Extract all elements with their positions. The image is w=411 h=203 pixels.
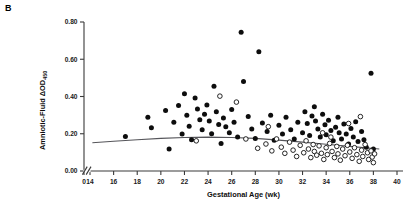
data-point-filled xyxy=(305,121,310,126)
y-tick-label: 0.40 xyxy=(65,93,78,100)
data-point-open xyxy=(325,152,330,157)
data-point-open xyxy=(311,142,316,147)
data-point-open xyxy=(234,100,239,105)
data-point-filled xyxy=(344,132,349,137)
data-point-filled xyxy=(246,114,251,119)
data-point-open xyxy=(279,145,284,150)
data-point-filled xyxy=(149,125,154,130)
data-point-filled xyxy=(221,115,226,120)
data-point-filled xyxy=(335,115,340,120)
data-point-filled xyxy=(265,129,270,134)
x-tick-label: 26 xyxy=(228,178,236,185)
data-point-filled xyxy=(123,134,128,139)
data-point-filled xyxy=(184,113,189,118)
data-point-open xyxy=(294,154,299,159)
data-point-filled xyxy=(209,131,214,136)
data-point-open xyxy=(264,142,269,147)
data-point-filled xyxy=(369,71,374,76)
y-tick-label: 0.20 xyxy=(65,130,78,137)
data-point-open xyxy=(330,149,335,154)
data-point-filled xyxy=(216,122,221,127)
data-point-open xyxy=(357,159,362,164)
data-point-filled xyxy=(295,120,300,125)
data-point-filled xyxy=(235,135,240,140)
data-point-open xyxy=(291,148,296,153)
data-point-filled xyxy=(351,135,356,140)
data-point-filled xyxy=(276,123,281,128)
data-point-open xyxy=(306,147,311,152)
data-point-filled xyxy=(232,120,237,125)
data-point-filled xyxy=(268,113,273,118)
data-point-open xyxy=(340,147,345,152)
data-point-filled xyxy=(241,79,246,84)
data-point-open xyxy=(266,124,271,129)
data-point-filled xyxy=(249,127,254,132)
data-point-open xyxy=(283,151,288,156)
data-point-filled xyxy=(253,136,258,141)
data-point-filled xyxy=(359,129,364,134)
data-point-filled xyxy=(292,136,297,141)
data-point-filled xyxy=(333,125,338,130)
x-tick-label: 34 xyxy=(322,178,330,185)
y-tick-label: 0.00 xyxy=(65,167,78,174)
data-point-filled xyxy=(207,119,212,124)
data-point-filled xyxy=(341,122,346,127)
scatter-plot: 0.000.200.400.600.8001416182022242628303… xyxy=(0,0,411,203)
data-point-filled xyxy=(176,103,181,108)
data-point-filled xyxy=(167,147,172,152)
data-point-filled xyxy=(219,141,224,146)
figure-panel-b: B Amniotic-Fluid ΔOD450 0.000.200.400.60… xyxy=(0,0,411,203)
data-point-open xyxy=(324,145,329,150)
data-point-filled xyxy=(307,133,312,138)
data-point-filled xyxy=(348,126,353,131)
data-point-open xyxy=(345,143,350,148)
data-point-open xyxy=(301,150,306,155)
data-point-filled xyxy=(187,124,192,129)
y-tick-label: 0.60 xyxy=(65,56,78,63)
data-point-open xyxy=(363,142,368,147)
x-tick-label: 18 xyxy=(134,178,142,185)
data-point-open xyxy=(372,152,377,157)
data-point-filled xyxy=(339,136,344,141)
x-tick-label: 14 xyxy=(86,178,94,185)
data-point-open xyxy=(355,152,360,157)
filled-circle-series xyxy=(123,30,376,152)
data-point-open xyxy=(314,153,319,158)
data-point-filled xyxy=(312,104,317,109)
data-point-open xyxy=(359,148,364,153)
data-point-filled xyxy=(302,109,307,114)
data-point-filled xyxy=(171,120,176,125)
data-point-filled xyxy=(180,132,185,137)
data-point-open xyxy=(255,146,260,151)
data-point-filled xyxy=(214,109,219,114)
data-point-open xyxy=(346,121,351,126)
data-point-filled xyxy=(200,127,205,132)
data-point-filled xyxy=(204,102,209,107)
data-point-filled xyxy=(239,30,244,35)
data-point-filled xyxy=(322,122,327,127)
x-tick-label: 28 xyxy=(252,178,260,185)
x-tick-label: 24 xyxy=(204,178,212,185)
data-point-open xyxy=(334,144,339,149)
data-point-filled xyxy=(229,107,234,112)
x-tick-label: 16 xyxy=(110,178,118,185)
data-point-open xyxy=(371,160,376,165)
x-axis-title: Gestational Age (wk) xyxy=(207,190,280,199)
data-point-filled xyxy=(202,112,207,117)
data-point-open xyxy=(194,139,199,144)
data-point-filled xyxy=(223,124,228,129)
data-point-filled xyxy=(211,84,216,89)
data-point-open xyxy=(358,114,363,119)
data-point-open xyxy=(332,155,337,160)
data-point-open xyxy=(298,143,303,148)
data-point-open xyxy=(329,135,334,140)
data-point-open xyxy=(336,152,341,157)
data-point-open xyxy=(360,154,365,159)
x-tick-label: 32 xyxy=(299,178,307,185)
data-point-filled xyxy=(315,127,320,132)
data-point-open xyxy=(320,131,325,136)
data-point-filled xyxy=(309,114,314,119)
data-point-filled xyxy=(280,132,285,137)
data-point-filled xyxy=(361,137,366,142)
data-point-filled xyxy=(189,137,194,142)
